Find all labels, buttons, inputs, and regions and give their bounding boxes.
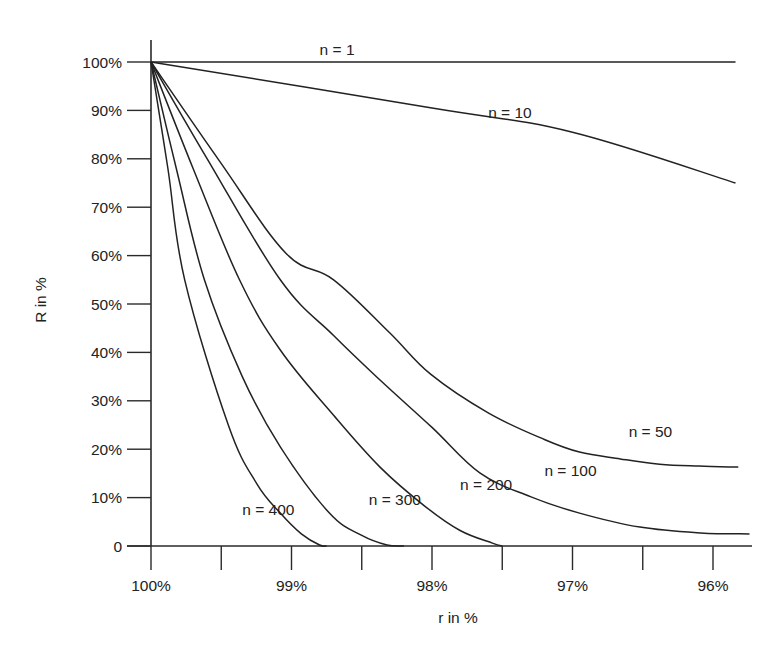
curve-label-n-1: n = 1 <box>320 41 355 58</box>
y-tick-label: 90% <box>91 102 122 119</box>
curve-label-n-10: n = 10 <box>488 104 532 121</box>
x-tick-label: 96% <box>697 577 728 594</box>
y-tick-label: 100% <box>82 54 122 71</box>
curve-n-50 <box>151 62 738 467</box>
curve-n-10 <box>151 62 736 183</box>
x-tick-label: 97% <box>557 577 588 594</box>
y-axis-title: R in % <box>32 277 49 323</box>
y-tick-label: 30% <box>91 392 122 409</box>
curve-label-n-100: n = 100 <box>544 462 597 479</box>
y-ticks: 010%20%30%40%50%60%70%80%90%100% <box>82 54 151 555</box>
chart: 010%20%30%40%50%60%70%80%90%100% 100%99%… <box>0 0 775 658</box>
curve-label-n-300: n = 300 <box>369 491 422 508</box>
y-tick-label: 20% <box>91 441 122 458</box>
curve-label-n-400: n = 400 <box>242 501 295 518</box>
curve-n-200 <box>151 62 502 546</box>
y-tick-label: 60% <box>91 247 122 264</box>
x-ticks: 100%99%98%97%96% <box>131 546 729 594</box>
curve-n-100 <box>151 62 750 534</box>
y-tick-label: 10% <box>91 489 122 506</box>
curve-label-n-50: n = 50 <box>629 423 673 440</box>
curve-label-n-200: n = 200 <box>460 476 513 493</box>
curves <box>151 62 750 546</box>
x-tick-label: 99% <box>276 577 307 594</box>
y-tick-label: 50% <box>91 296 122 313</box>
y-tick-label: 40% <box>91 344 122 361</box>
x-tick-label: 98% <box>416 577 447 594</box>
x-tick-label: 100% <box>131 577 171 594</box>
x-axis-title: r in % <box>438 609 478 626</box>
y-tick-label: 80% <box>91 150 122 167</box>
y-tick-label: 0 <box>113 538 122 555</box>
curve-n-300 <box>151 62 404 546</box>
axes <box>127 40 752 546</box>
y-tick-label: 70% <box>91 199 122 216</box>
